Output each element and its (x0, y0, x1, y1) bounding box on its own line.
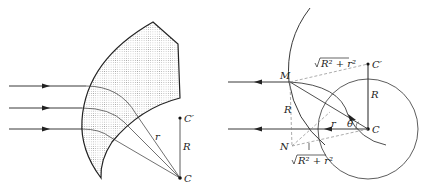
sqrt-label-top: R² + r² (315, 58, 356, 69)
label-c-right: C (372, 124, 380, 135)
large-arc (288, 8, 325, 145)
sqrt-label-bottom: R² + r² (292, 155, 333, 166)
label-R: R (182, 141, 191, 152)
right-figure: M N C′ C R R r θ R² + r² R² + r² (228, 8, 418, 179)
label-N: N (279, 141, 290, 152)
ray-arrow-icons (42, 84, 50, 132)
sqrt-top-text: R² + r² (320, 58, 356, 69)
label-R-vertical: R (370, 89, 379, 100)
left-figure: C′ C R r (9, 22, 195, 184)
label-theta: θ (347, 118, 353, 129)
diagram-canvas: C′ C R r (0, 0, 423, 191)
c-prime-point (178, 116, 181, 119)
m-to-c-line (290, 82, 368, 129)
sqrt-bottom-text: R² + r² (297, 155, 333, 166)
label-c-prime: C′ (184, 113, 195, 124)
label-c: C (184, 173, 192, 184)
label-R-dashed: R (283, 104, 292, 115)
label-r-right: r (331, 118, 337, 129)
magnet-pole-body (82, 22, 180, 178)
dashed-construction (290, 64, 368, 146)
label-c-prime-right: C′ (372, 59, 383, 70)
c-point (178, 176, 182, 180)
label-M: M (279, 70, 291, 81)
label-r: r (155, 131, 161, 142)
